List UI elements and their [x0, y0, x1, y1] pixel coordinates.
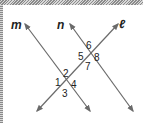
angle-label-6: 6	[86, 40, 92, 51]
angle-label-8: 8	[94, 52, 100, 63]
transversal-diagram: m n ℓ 1 2 3 4 5 6 7 8	[0, 0, 143, 123]
angle-label-1: 1	[55, 77, 61, 88]
angle-label-2: 2	[63, 68, 69, 79]
angle-label-4: 4	[71, 79, 77, 90]
line-label-l: ℓ	[119, 17, 126, 31]
line-m	[25, 24, 90, 111]
line-label-m: m	[11, 18, 22, 32]
line-label-n: n	[57, 18, 64, 32]
line-n	[70, 24, 133, 111]
angle-label-5: 5	[78, 51, 84, 62]
angle-label-7: 7	[85, 61, 91, 72]
line-l	[37, 24, 118, 111]
angle-label-3: 3	[62, 88, 68, 99]
